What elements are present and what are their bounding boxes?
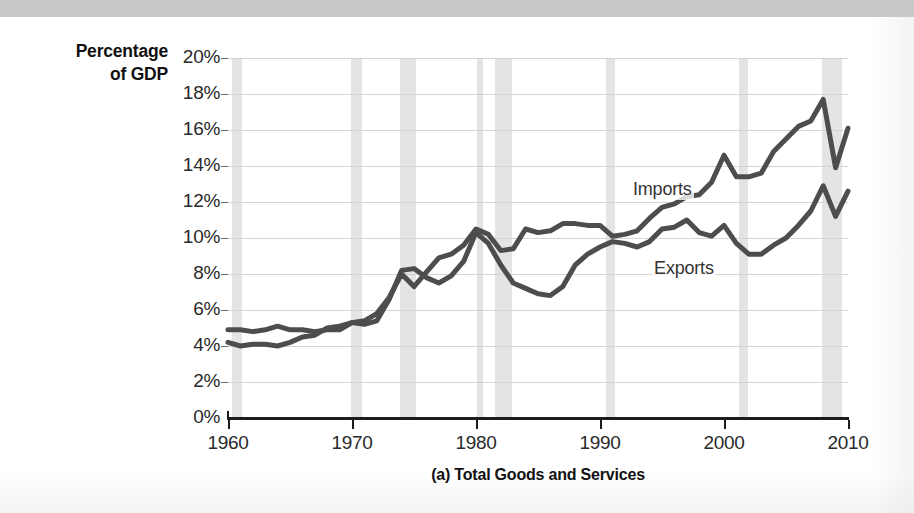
y-tick-mark [221,346,228,347]
x-tick-label: 2010 [803,432,893,454]
series-label-imports: Imports [631,179,694,200]
y-tick-label: 0% [160,406,220,428]
y-tick-label: 6% [160,298,220,320]
y-tick-label: 12% [160,190,220,212]
x-axis-line [227,417,849,420]
y-tick-mark [221,238,228,239]
y-tick-label: 14% [160,154,220,176]
y-tick-label: 8% [160,262,220,284]
series-line-exports [228,186,848,332]
x-tick-mark [352,420,354,429]
series-line-imports [228,99,848,346]
x-tick-mark [724,420,726,429]
plot-area: ImportsExports [228,58,848,418]
x-tick-label: 1980 [431,432,521,454]
x-tick-mark [476,420,478,429]
y-axis-title-line-2: of GDP [18,63,168,86]
y-tick-label: 10% [160,226,220,248]
x-tick-label: 1970 [307,432,397,454]
y-tick-label: 2% [160,370,220,392]
y-tick-mark [221,382,228,383]
y-tick-label: 16% [160,118,220,140]
y-tick-label: 18% [160,82,220,104]
figure-caption: (a) Total Goods and Services [228,466,848,484]
y-tick-label: 20% [160,46,220,68]
x-tick-mark [600,420,602,429]
y-tick-mark [221,166,228,167]
x-tick-label: 1990 [555,432,645,454]
y-tick-mark [221,310,228,311]
y-tick-mark [221,58,228,59]
x-axis-origin-cap [227,411,229,419]
y-tick-label: 4% [160,334,220,356]
series-label-exports: Exports [652,258,716,279]
x-tick-label: 1960 [183,432,273,454]
series-lines [228,58,848,418]
y-tick-mark [221,94,228,95]
y-tick-mark [221,274,228,275]
y-axis-title: Percentage of GDP [18,40,168,86]
figure-panel: Percentage of GDP ImportsExports 0%2%4%6… [0,0,914,513]
y-tick-mark [221,202,228,203]
y-tick-mark [221,130,228,131]
scan-top-strip [0,0,914,17]
x-tick-mark [228,420,230,429]
y-axis-title-line-1: Percentage [18,40,168,63]
x-tick-mark [848,420,850,429]
x-tick-label: 2000 [679,432,769,454]
